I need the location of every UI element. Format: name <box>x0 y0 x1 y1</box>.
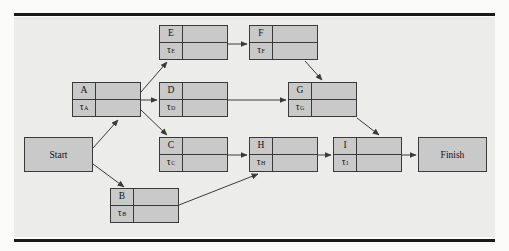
edge-F-to-G <box>305 61 322 80</box>
tau-symbol: τ <box>296 103 300 113</box>
task-duration: τA <box>73 100 96 117</box>
task-label: G <box>289 83 312 100</box>
task-slack-cell <box>357 155 401 172</box>
task-duration: τD <box>160 100 183 117</box>
task-node-H: HτH <box>249 137 318 172</box>
tau-symbol: τ <box>118 209 122 219</box>
terminal-node-start: Start <box>24 137 93 172</box>
tau-subscript: B <box>122 211 126 217</box>
task-node-B: BτB <box>110 188 179 223</box>
task-detail-cell <box>273 26 317 43</box>
tau-symbol: τ <box>257 158 261 168</box>
task-detail-cell <box>273 138 317 155</box>
task-detail-cell <box>312 83 356 100</box>
task-detail-cell <box>183 26 227 43</box>
task-slack-cell <box>134 206 178 223</box>
tau-subscript: C <box>171 160 175 166</box>
task-label: I <box>334 138 357 155</box>
terminal-node-finish: Finish <box>418 137 487 172</box>
task-detail-cell <box>96 83 140 100</box>
tau-subscript: A <box>84 105 88 111</box>
task-detail-cell <box>183 83 227 100</box>
tau-symbol: τ <box>167 103 171 113</box>
task-slack-cell <box>312 100 356 117</box>
task-detail-cell <box>357 138 401 155</box>
task-node-A: AτA <box>72 82 141 117</box>
task-label: D <box>160 83 183 100</box>
task-label: A <box>73 83 96 100</box>
task-node-G: GτG <box>288 82 357 117</box>
task-label: E <box>160 26 183 43</box>
tau-subscript: E <box>171 48 175 54</box>
task-slack-cell <box>183 43 227 60</box>
task-slack-cell <box>183 155 227 172</box>
task-duration: τI <box>334 155 357 172</box>
task-duration: τG <box>289 100 312 117</box>
tau-symbol: τ <box>167 46 171 56</box>
task-node-I: IτI <box>333 137 402 172</box>
task-label: C <box>160 138 183 155</box>
tau-subscript: H <box>261 160 265 166</box>
task-node-E: EτE <box>159 25 228 60</box>
task-slack-cell <box>273 43 317 60</box>
tau-subscript: I <box>346 160 348 166</box>
edge-B-to-H <box>179 174 258 205</box>
task-detail-cell <box>183 138 227 155</box>
edge-G-to-I <box>357 118 379 135</box>
terminal-label: Start <box>50 150 68 160</box>
task-slack-cell <box>96 100 140 117</box>
task-slack-cell <box>273 155 317 172</box>
task-label: B <box>111 189 134 206</box>
tau-symbol: τ <box>342 158 346 168</box>
task-label: H <box>250 138 273 155</box>
terminal-label: Finish <box>441 150 465 160</box>
tau-symbol: τ <box>167 158 171 168</box>
edge-start-to-B <box>93 164 124 187</box>
edge-start-to-A <box>93 120 118 148</box>
task-node-F: FτF <box>249 25 318 60</box>
task-label: F <box>250 26 273 43</box>
task-duration: τB <box>111 206 134 223</box>
tau-subscript: F <box>261 48 264 54</box>
task-duration: τC <box>160 155 183 172</box>
task-duration: τE <box>160 43 183 60</box>
task-detail-cell <box>134 189 178 206</box>
task-node-D: DτD <box>159 82 228 117</box>
tau-subscript: D <box>171 105 175 111</box>
bottom-rule <box>14 239 495 242</box>
task-duration: τF <box>250 43 273 60</box>
task-slack-cell <box>183 100 227 117</box>
tau-symbol: τ <box>80 103 84 113</box>
figure-canvas: StartFinishAτABτBCτCDτDEτEFτFGτGHτHIτI <box>0 0 509 251</box>
tau-symbol: τ <box>257 46 261 56</box>
tau-subscript: G <box>300 105 304 111</box>
task-node-C: CτC <box>159 137 228 172</box>
task-duration: τH <box>250 155 273 172</box>
